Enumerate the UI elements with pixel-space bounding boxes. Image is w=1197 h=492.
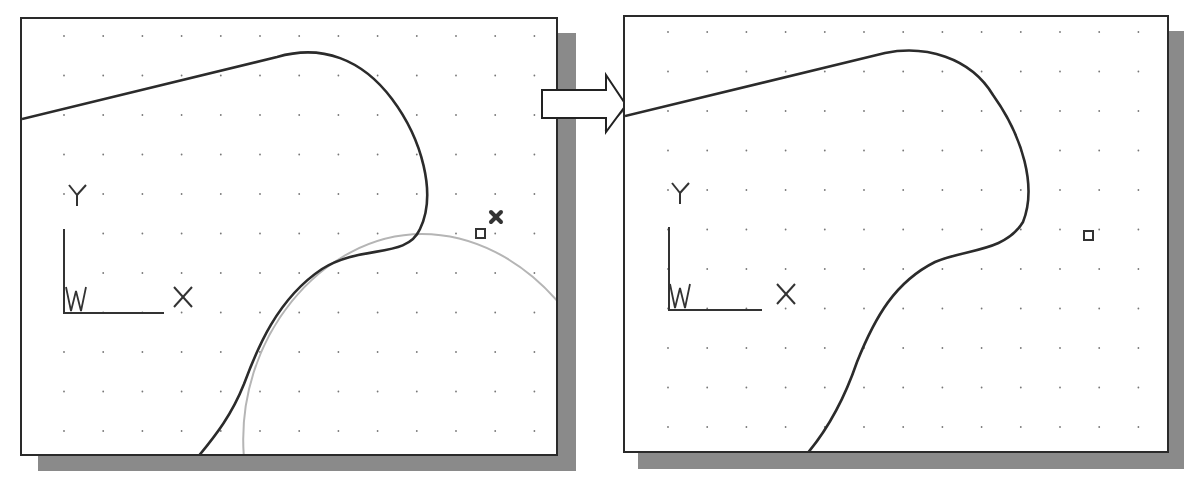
profile-curve <box>625 51 1028 453</box>
before-drawing <box>22 19 558 456</box>
ucs-icon <box>63 185 192 313</box>
selection-box-icon <box>1084 231 1093 240</box>
after-drawing <box>625 17 1169 453</box>
before-panel <box>20 17 558 456</box>
construction-circle <box>243 234 558 456</box>
after-panel <box>623 15 1169 453</box>
grid-dots <box>63 35 535 432</box>
grid-dots <box>667 31 1139 428</box>
x-marker-icon <box>491 212 501 222</box>
ucs-icon <box>668 183 795 310</box>
profile-curve <box>22 52 427 456</box>
selection-box-icon <box>476 229 485 238</box>
